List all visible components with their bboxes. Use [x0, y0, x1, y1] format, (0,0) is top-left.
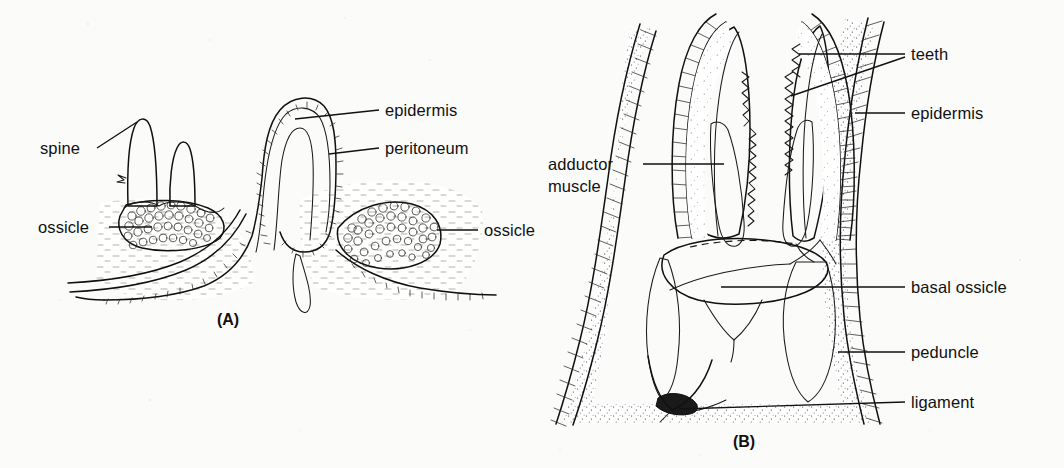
label-ossicle-left: ossicle	[38, 218, 89, 236]
label-spine: spine	[40, 139, 80, 157]
label-peduncle: peduncle	[911, 343, 979, 361]
anatomical-figure: spine ossicle epidermis peritoneum ossic…	[0, 0, 1064, 468]
label-teeth: teeth	[911, 45, 948, 63]
label-adductor-muscle-line2: muscle	[548, 177, 601, 195]
label-peritoneum: peritoneum	[385, 139, 469, 157]
label-epidermis-b: epidermis	[911, 104, 983, 122]
label-ossicle-right: ossicle	[484, 221, 535, 239]
panel-a-caption: (A)	[217, 311, 239, 328]
label-adductor-muscle-line1: adductor	[548, 155, 613, 173]
panel-b-caption: (B)	[733, 433, 755, 450]
label-epidermis: epidermis	[385, 101, 457, 119]
label-ligament: ligament	[911, 393, 974, 411]
label-basal-ossicle: basal ossicle	[911, 278, 1007, 296]
figure-canvas: spine ossicle epidermis peritoneum ossic…	[0, 0, 1064, 468]
